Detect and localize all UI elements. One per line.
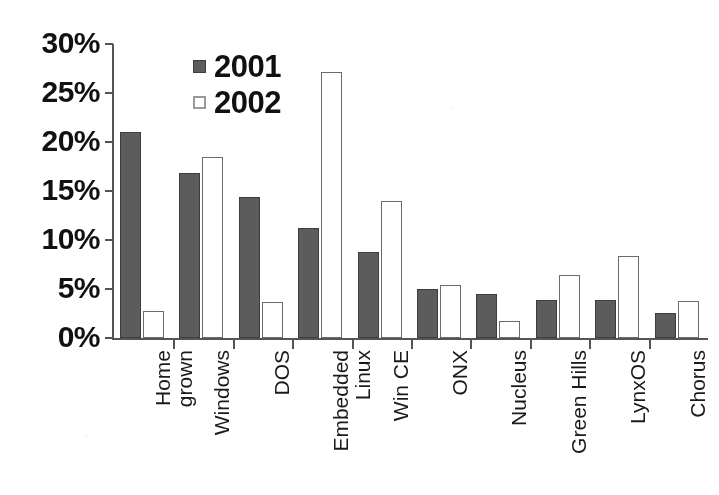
x-category-label: Win CE [390, 350, 412, 490]
y-tick [105, 141, 113, 143]
bar-2002 [381, 201, 402, 338]
x-tick [470, 340, 472, 349]
legend-label-2001: 2001 [214, 51, 281, 82]
legend-item-2001: 2001 [193, 48, 281, 84]
bar-2001 [655, 313, 676, 338]
x-category-label-line: Embedded [330, 350, 352, 490]
bar-2001 [536, 300, 557, 338]
bar-2001 [179, 173, 200, 338]
x-axis-line [112, 338, 708, 340]
y-tick-label: 0% [58, 322, 100, 352]
y-tick-label: 10% [41, 224, 100, 254]
x-category-label-line: LynxOS [627, 350, 649, 490]
bar-2001 [239, 197, 260, 338]
x-category-label: LynxOS [627, 350, 649, 490]
y-tick-label: 5% [58, 273, 100, 303]
x-axis-category-labels: HomegrownWindowsDOSEmbeddedLinuxWin CEON… [114, 350, 708, 490]
bar-group [358, 44, 402, 338]
bar-group [120, 44, 164, 338]
x-category-label-line: Home [152, 350, 174, 490]
bar-2002 [559, 275, 580, 338]
y-tick-label-wrap: 20% [0, 142, 100, 143]
y-tick-label-wrap: 30% [0, 44, 100, 45]
bar-2001 [120, 132, 141, 338]
bar-2002 [202, 157, 223, 338]
x-category-label-line: Windows [211, 350, 233, 490]
y-tick [105, 92, 113, 94]
bar-group [595, 44, 639, 338]
x-category-label-line: ONX [449, 350, 471, 490]
y-tick-label-wrap: 5% [0, 289, 100, 290]
bar-group [536, 44, 580, 338]
y-tick-label-wrap: 25% [0, 93, 100, 94]
x-category-label-line: grown [174, 350, 196, 490]
y-tick [105, 239, 113, 241]
x-category-label: Windows [211, 350, 233, 490]
legend-swatch-2002-icon [193, 96, 206, 109]
x-category-label: Green Hills [568, 350, 590, 490]
bar-group [655, 44, 699, 338]
y-tick [105, 190, 113, 192]
bar-2002 [440, 285, 461, 338]
x-category-label: DOS [271, 350, 293, 490]
bar-2001 [595, 300, 616, 338]
legend-label-2002: 2002 [214, 87, 281, 118]
x-tick [530, 340, 532, 349]
x-category-label-line: Chorus [687, 350, 709, 490]
x-tick [233, 340, 235, 349]
chart-legend: 2001 2002 [193, 48, 281, 120]
y-tick [105, 288, 113, 290]
y-tick-label: 20% [41, 126, 100, 156]
x-category-label-line: Nucleus [508, 350, 530, 490]
x-tick [589, 340, 591, 349]
x-category-label: Nucleus [508, 350, 530, 490]
y-tick [105, 43, 113, 45]
bar-group [476, 44, 520, 338]
x-category-label-line: Win CE [390, 350, 412, 490]
x-category-label: Chorus [687, 350, 709, 490]
y-tick-label: 30% [41, 28, 100, 58]
x-category-label-line: Linux [352, 350, 374, 490]
x-category-label-line: Green Hills [568, 350, 590, 490]
x-tick [649, 340, 651, 349]
y-tick-label-wrap: 10% [0, 240, 100, 241]
legend-item-2002: 2002 [193, 84, 281, 120]
x-tick [411, 340, 413, 349]
bar-group [417, 44, 461, 338]
x-category-label-line: DOS [271, 350, 293, 490]
y-tick-label-wrap: 15% [0, 191, 100, 192]
bar-2002 [499, 321, 520, 338]
bar-2001 [298, 228, 319, 338]
x-category-label: EmbeddedLinux [330, 350, 374, 490]
bar-2002 [143, 311, 164, 338]
bar-2002 [262, 302, 283, 338]
bar-2001 [358, 252, 379, 338]
x-category-label: Homegrown [152, 350, 196, 490]
bar-2001 [417, 289, 438, 338]
bar-2002 [321, 72, 342, 338]
y-tick-label: 15% [41, 175, 100, 205]
bar-2002 [678, 301, 699, 338]
x-tick [352, 340, 354, 349]
bar-group [298, 44, 342, 338]
x-tick [173, 340, 175, 349]
bar-2002 [618, 256, 639, 338]
legend-swatch-2001-icon [193, 60, 206, 73]
bar-2001 [476, 294, 497, 338]
y-tick-label-wrap: 0% [0, 338, 100, 339]
y-tick-label: 25% [41, 77, 100, 107]
bar-chart: 0%5%10%15%20%25%30% HomegrownWindowsDOSE… [0, 0, 719, 495]
x-category-label: ONX [449, 350, 471, 490]
x-tick [292, 340, 294, 349]
